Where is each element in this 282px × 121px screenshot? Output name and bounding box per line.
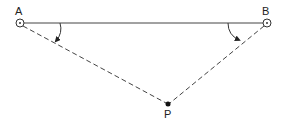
point-p: P	[164, 102, 171, 121]
point-p-label: P	[164, 108, 171, 120]
point-a: A	[15, 5, 24, 27]
triangulation-diagram: A B P	[0, 0, 282, 121]
point-b: B	[262, 5, 271, 27]
angle-mark-a	[56, 23, 61, 41]
point-a-label: A	[15, 5, 23, 17]
segment-bp	[170, 26, 264, 103]
point-p-marker-icon	[166, 102, 171, 107]
point-b-label: B	[262, 5, 269, 17]
segment-ap	[23, 26, 166, 103]
angle-mark-b	[228, 23, 239, 40]
